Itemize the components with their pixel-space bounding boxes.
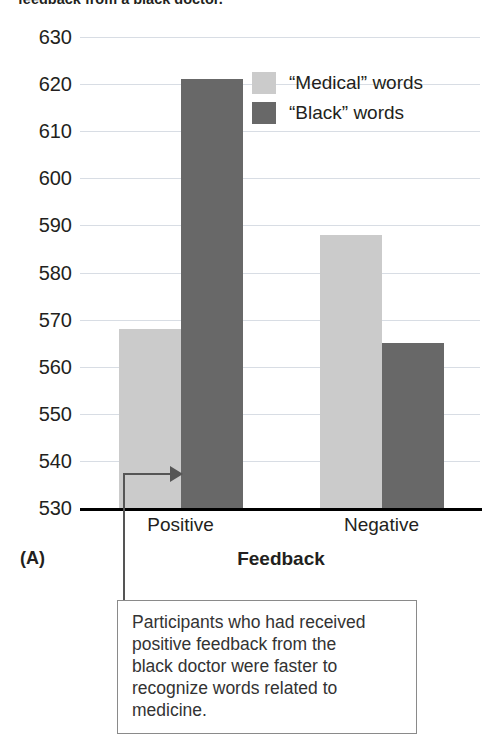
panel-label: (A)	[20, 548, 45, 569]
chart-legend: “Medical” words “Black” words	[252, 68, 423, 128]
legend-item-medical: “Medical” words	[252, 68, 423, 98]
x-axis-line	[80, 508, 482, 511]
y-axis-tick-label: 560	[18, 357, 72, 377]
y-axis-tick-label: 540	[18, 451, 72, 471]
y-axis-tick-label: 630	[18, 27, 72, 47]
legend-label-black: “Black” words	[289, 102, 404, 124]
bar-negative-black	[382, 343, 444, 508]
y-axis-tick-label: 600	[18, 168, 72, 188]
x-axis-title: Feedback	[80, 548, 482, 570]
callout-line-4: medicine.	[132, 699, 404, 721]
figure-panel: feedback from a black doctor. 6306206106…	[0, 0, 495, 752]
y-axis-tick-label: 610	[18, 121, 72, 141]
y-axis-tick-label: 580	[18, 263, 72, 283]
x-axis-tick-negative: Negative	[322, 514, 442, 536]
y-axis-tick-label: 620	[18, 74, 72, 94]
callout-line-2: black doctor were faster to	[132, 655, 404, 677]
bar-negative-medical	[320, 235, 382, 508]
legend-swatch-black-icon	[252, 102, 276, 124]
callout-line-0: Participants who had received	[132, 611, 404, 633]
callout-line-1: positive feedback from the	[132, 633, 404, 655]
legend-item-black: “Black” words	[252, 98, 423, 128]
bar-positive-black	[181, 79, 243, 508]
annotation-connector-horizontal	[123, 473, 173, 475]
x-axis-tick-positive: Positive	[121, 514, 241, 536]
y-axis-tick-label: 550	[18, 404, 72, 424]
legend-label-medical: “Medical” words	[289, 72, 423, 94]
legend-swatch-medical-icon	[252, 72, 276, 94]
y-axis-tick-label: 570	[18, 310, 72, 330]
callout-box: Participants who had received positive f…	[117, 600, 417, 734]
y-axis-tick-label: 530	[18, 498, 72, 518]
y-axis-tick-label: 590	[18, 215, 72, 235]
callout-line-3: recognize words related to	[132, 677, 404, 699]
annotation-arrowhead-icon	[170, 466, 183, 482]
annotation-connector-vertical	[123, 473, 125, 601]
